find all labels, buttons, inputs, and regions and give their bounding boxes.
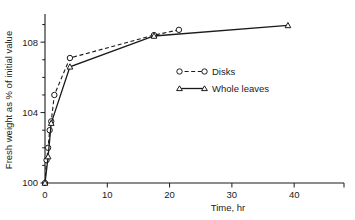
x-tick-label: 30 <box>227 189 238 200</box>
y-tick-label: 108 <box>22 37 38 48</box>
x-tick-label: 20 <box>164 189 175 200</box>
data-point-triangle <box>45 154 51 159</box>
legend-entry-disks: Disks <box>177 66 236 77</box>
legend-marker-circle-left <box>177 69 182 74</box>
data-point-circle <box>176 27 181 32</box>
legend-marker-triangle-left <box>177 86 183 91</box>
axes <box>45 14 344 183</box>
x-axis-title: Time, hr <box>211 202 245 213</box>
series-line <box>45 30 179 183</box>
data-point-circle <box>47 127 52 132</box>
x-tick-label-group: 010203040 <box>42 189 299 200</box>
series-whole-leaves <box>42 22 291 185</box>
y-axis-title: Fresh weight as % of initial value <box>3 31 14 169</box>
x-tick-label: 10 <box>102 189 113 200</box>
x-tick-group <box>107 183 344 188</box>
legend-marker-triangle-right <box>202 86 208 91</box>
y-tick-label-group: 100104108 <box>22 37 38 189</box>
legend-label-disks: Disks <box>212 66 235 77</box>
legend-marker-circle-right <box>202 69 207 74</box>
legend-entry-whole-leaves: Whole leaves <box>177 83 270 94</box>
y-tick-label: 100 <box>22 177 38 188</box>
x-tick-label: 40 <box>289 189 300 200</box>
x-tick-label: 0 <box>42 189 47 200</box>
data-point-circle <box>52 92 57 97</box>
line-chart: 100104108 010203040 Time, hr Fresh weigh… <box>0 0 355 220</box>
data-series-group <box>42 22 291 185</box>
legend: Disks Whole leaves <box>177 66 270 94</box>
data-point-circle <box>67 55 72 60</box>
legend-label-whole-leaves: Whole leaves <box>212 83 269 94</box>
y-tick-label: 104 <box>22 107 38 118</box>
series-line <box>45 25 288 183</box>
